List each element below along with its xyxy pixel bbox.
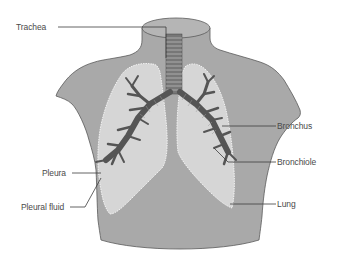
label-lung: Lung xyxy=(277,199,296,209)
label-pleural-fluid: Pleural fluid xyxy=(21,202,64,212)
trachea xyxy=(166,34,182,94)
respiratory-diagram: Trachea Bronchus Bronchiole Pleura Pleur… xyxy=(0,0,337,271)
label-trachea: Trachea xyxy=(16,22,46,32)
label-pleura: Pleura xyxy=(42,168,66,178)
label-bronchiole: Bronchiole xyxy=(277,157,316,167)
label-bronchus: Bronchus xyxy=(277,121,312,131)
diagram-canvas xyxy=(0,0,337,271)
